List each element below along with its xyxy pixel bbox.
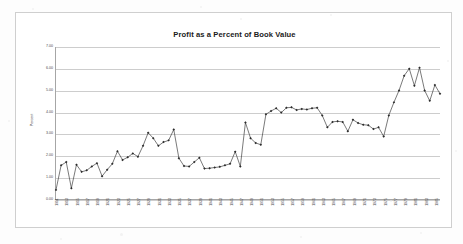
speckle — [420, 232, 422, 234]
x-axis-tick-label: 1979 — [405, 198, 408, 206]
plot-area: 7.006.005.004.003.002.001.000.00 1911191… — [55, 47, 440, 200]
data-series-layer — [56, 47, 440, 199]
data-point-marker — [336, 120, 338, 122]
x-axis-tick-label: 1937 — [189, 198, 192, 206]
x-axis-tick-label: 1939 — [200, 198, 203, 206]
y-axis-tick-label: 5.00 — [46, 89, 53, 93]
data-point-marker — [388, 114, 390, 116]
x-axis-tick-label: 1965 — [333, 198, 336, 206]
x-axis-tick-label: 1981 — [415, 198, 418, 206]
x-axis-tick-label: 1919 — [97, 198, 100, 206]
y-axis-title: Percent — [30, 114, 34, 126]
data-point-marker — [311, 107, 313, 109]
screenshot-root: Profit as a Percent of Book Value Percen… — [0, 0, 463, 244]
data-point-marker — [393, 101, 395, 103]
data-point-marker — [167, 139, 169, 141]
data-point-marker — [244, 121, 246, 123]
x-axis-tick-label: 1975 — [385, 198, 388, 206]
data-point-marker — [203, 167, 205, 169]
y-axis-tick-label: 6.00 — [46, 67, 53, 71]
data-point-marker — [260, 143, 262, 145]
data-point-marker — [239, 165, 241, 167]
speckle — [390, 200, 392, 202]
x-axis-tick-label: 1983 — [426, 198, 429, 206]
y-axis-tick-label: 4.00 — [46, 111, 53, 115]
speckle — [60, 238, 62, 240]
data-point-marker — [423, 89, 425, 91]
data-point-marker — [362, 123, 364, 125]
data-point-marker — [418, 66, 420, 68]
x-axis-tick-label: 1963 — [323, 198, 326, 206]
x-axis-tick-label: 1955 — [282, 198, 285, 206]
x-axis-tick-label: 1921 — [107, 198, 110, 206]
speckle — [32, 8, 34, 10]
chart-title: Profit as a Percent of Book Value — [16, 30, 453, 39]
x-axis-tick-label: 1971 — [364, 198, 367, 206]
x-axis-tick-label: 1947 — [241, 198, 244, 206]
data-point-marker — [142, 145, 144, 147]
x-axis-tick-label: 1915 — [77, 198, 80, 206]
speckle — [120, 233, 123, 236]
x-axis-tick-label: 1953 — [272, 198, 275, 206]
x-axis-tick-label: 1977 — [395, 198, 398, 206]
x-axis-tick-label: 1967 — [343, 198, 346, 206]
data-point-marker — [219, 166, 221, 168]
x-axis-tick-label: 1985 — [436, 198, 439, 206]
x-axis-tick-label: 1951 — [261, 198, 264, 206]
x-axis-tick-label: 1917 — [87, 198, 90, 206]
x-axis-tick-label: 1925 — [128, 198, 131, 206]
data-point-marker — [229, 163, 231, 165]
data-point-marker — [301, 108, 303, 110]
y-axis-tick-label: 7.00 — [46, 45, 53, 49]
x-axis-tick-label: 1913 — [66, 198, 69, 206]
x-axis-tick-label: 1935 — [179, 198, 182, 206]
data-point-marker — [208, 167, 210, 169]
x-axis-tick-label: 1933 — [169, 198, 172, 206]
speckle — [330, 14, 332, 16]
y-axis-tick-label: 0.00 — [46, 198, 53, 202]
x-axis-tick-label: 1941 — [210, 198, 213, 206]
data-point-marker — [234, 150, 236, 152]
x-axis-tick-label: 1973 — [374, 198, 377, 206]
data-point-marker — [295, 109, 297, 111]
x-axis-tick-label: 1929 — [148, 198, 151, 206]
data-point-marker — [413, 84, 415, 86]
series-line-profit — [56, 68, 440, 190]
speckle — [200, 6, 202, 8]
x-axis-tick-label: 1959 — [302, 198, 305, 206]
data-point-marker — [398, 89, 400, 91]
x-axis-tick-label: 1969 — [354, 198, 357, 206]
data-point-marker — [224, 164, 226, 166]
speckle — [8, 120, 10, 122]
y-axis-tick-label: 2.00 — [46, 154, 53, 158]
series-markers — [55, 66, 441, 191]
chart-object-frame: Profit as a Percent of Book Value Percen… — [15, 12, 452, 228]
x-axis-tick-label: 1923 — [118, 198, 121, 206]
data-point-marker — [429, 100, 431, 102]
x-axis-tick-label: 1911 — [56, 198, 59, 205]
y-axis-tick-label: 1.00 — [46, 176, 53, 180]
speckle — [240, 18, 242, 20]
data-point-marker — [306, 108, 308, 110]
data-point-marker — [70, 187, 72, 189]
x-axis-tick-label: 1957 — [292, 198, 295, 206]
data-point-marker — [173, 128, 175, 130]
x-axis-tick-label: 1949 — [251, 198, 254, 206]
data-point-marker — [290, 106, 292, 108]
data-point-marker — [213, 166, 215, 168]
speckle — [455, 150, 457, 152]
x-axis-tick-label: 1961 — [313, 198, 316, 206]
speckle — [300, 236, 302, 238]
x-axis-tick-label: 1945 — [231, 198, 234, 206]
x-axis-tick-labels: 1911191319151917191919211923192519271929… — [56, 199, 440, 219]
data-point-marker — [55, 189, 57, 191]
x-axis-tick-label: 1943 — [220, 198, 223, 206]
y-axis-tick-label: 3.00 — [46, 133, 53, 137]
x-axis-tick-label: 1931 — [159, 198, 162, 206]
speckle — [447, 60, 449, 62]
x-axis-tick-label: 1927 — [138, 198, 141, 206]
